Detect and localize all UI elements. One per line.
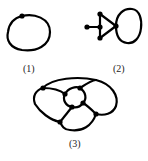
graph-2: [84, 9, 141, 43]
graph-1-vertex: [19, 13, 24, 18]
graph-3-vertex: [93, 111, 98, 116]
graph-figure: [0, 0, 148, 161]
graph-3-vertex: [57, 119, 62, 124]
graph-3-vertex: [80, 100, 85, 105]
graph-3-edge: [60, 107, 72, 122]
graph-2-vertex: [97, 11, 102, 16]
graph-3-vertex: [69, 104, 74, 109]
graph-2-vertex: [97, 35, 102, 40]
graph-3-vertex: [40, 85, 45, 90]
graph-1-label: (1): [23, 64, 35, 74]
graph-2-vertex: [113, 23, 118, 28]
graph-2-vertex: [97, 24, 102, 29]
graph-2-label: (2): [113, 64, 125, 74]
graph-2-edge: [100, 14, 116, 26]
graph-3: [34, 78, 117, 130]
graph-3-vertex: [77, 85, 82, 90]
graph-3-vertex: [62, 91, 67, 96]
graph-3-edge: [80, 80, 96, 88]
graph-2-vertex: [84, 24, 89, 29]
graph-3-label: (3): [69, 139, 81, 149]
graph-3-edge: [43, 88, 65, 94]
graph-3-outer-cycle: [34, 78, 117, 130]
graph-1: [8, 13, 50, 50]
graph-2-loop: [116, 9, 141, 43]
graph-1-loop: [8, 15, 50, 50]
